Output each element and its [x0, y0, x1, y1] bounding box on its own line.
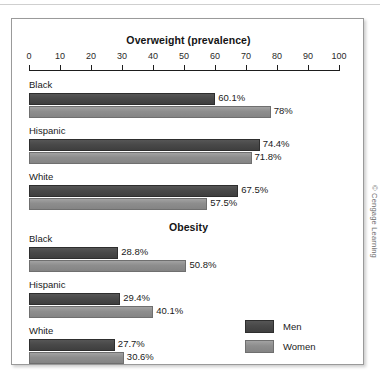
- bar-men: [29, 93, 215, 105]
- overweight-chart-title: Overweight (prevalence): [12, 34, 365, 46]
- bar-value-label: 71.8%: [252, 151, 282, 162]
- x-axis-tick-mark: [308, 65, 309, 71]
- x-axis-tick-label: 90: [303, 51, 313, 61]
- legend: MenWomen: [245, 316, 355, 356]
- x-axis-tick-label: 50: [179, 51, 189, 61]
- bar-row-men: 29.4%: [29, 293, 340, 305]
- legend-swatch-men: [245, 320, 274, 333]
- bar-group: Hispanic74.4%71.8%: [29, 125, 340, 171]
- bar-value-label: 74.4%: [260, 138, 290, 149]
- bar-value-label: 40.1%: [153, 305, 183, 316]
- bar-value-label: 67.5%: [238, 184, 268, 195]
- x-axis-tick-label: 60: [210, 51, 220, 61]
- legend-label-women: Women: [283, 341, 316, 352]
- bar-women: [29, 152, 252, 164]
- x-axis-tick-mark: [122, 65, 123, 71]
- bar-value-label: 28.8%: [118, 246, 148, 257]
- bar-women: [29, 260, 186, 272]
- x-axis-tick-label: 70: [241, 51, 251, 61]
- x-axis-tick-label: 0: [26, 51, 31, 61]
- bar-group-label: Hispanic: [29, 279, 65, 290]
- bar-group: Black60.1%78%: [29, 79, 340, 125]
- x-axis-tick-mark: [215, 65, 216, 71]
- bar-value-label: 57.5%: [207, 197, 237, 208]
- bar-men: [29, 139, 260, 151]
- top-divider: [0, 4, 380, 5]
- bar-value-label: 78%: [271, 105, 293, 116]
- bar-men: [29, 339, 115, 351]
- bar-women: [29, 198, 207, 210]
- bar-group: White67.5%57.5%: [29, 171, 340, 217]
- bar-row-men: 67.5%: [29, 185, 340, 197]
- overweight-plot-area: Black60.1%78%Hispanic74.4%71.8%White67.5…: [29, 79, 340, 217]
- x-axis-tick-mark: [184, 65, 185, 71]
- bar-women: [29, 352, 124, 364]
- x-axis-tick-mark: [277, 65, 278, 71]
- x-axis-tick-mark: [153, 65, 154, 71]
- bar-group: Black28.8%50.8%: [29, 233, 340, 279]
- obesity-chart-title: Obesity: [12, 221, 365, 233]
- bar-value-label: 29.4%: [120, 292, 150, 303]
- legend-swatch-women: [245, 340, 274, 353]
- bar-group-label: White: [29, 171, 53, 182]
- bar-value-label: 27.7%: [115, 338, 145, 349]
- x-axis: 0102030405060708090100: [29, 51, 340, 77]
- bar-row-women: 57.5%: [29, 198, 340, 210]
- x-axis-tick-mark: [60, 65, 61, 71]
- x-axis-tick-label: 30: [117, 51, 127, 61]
- bar-row-women: 71.8%: [29, 152, 340, 164]
- bar-value-label: 50.8%: [186, 259, 216, 270]
- bar-group-label: Black: [29, 233, 52, 244]
- x-axis-tick-label: 10: [55, 51, 65, 61]
- bar-value-label: 30.6%: [124, 351, 154, 362]
- x-axis-tick-mark: [29, 65, 30, 71]
- bar-value-label: 60.1%: [215, 92, 245, 103]
- x-axis-tick-mark: [339, 65, 340, 71]
- x-axis-tick-label: 100: [331, 51, 346, 61]
- bar-group-label: Black: [29, 79, 52, 90]
- figure: Overweight (prevalence) 0102030405060708…: [0, 0, 380, 388]
- bar-group-label: White: [29, 325, 53, 336]
- bar-women: [29, 306, 153, 318]
- chart-panel: Overweight (prevalence) 0102030405060708…: [11, 18, 364, 365]
- copyright-credit: © Cengage Learning: [370, 185, 379, 258]
- bar-men: [29, 247, 118, 259]
- bar-women: [29, 106, 271, 118]
- bar-row-men: 60.1%: [29, 93, 340, 105]
- bar-row-men: 74.4%: [29, 139, 340, 151]
- x-axis-tick-label: 80: [272, 51, 282, 61]
- x-axis-tick-label: 40: [148, 51, 158, 61]
- bar-men: [29, 293, 120, 305]
- x-axis-tick-mark: [246, 65, 247, 71]
- bar-row-men: 28.8%: [29, 247, 340, 259]
- legend-item-women: Women: [245, 336, 355, 356]
- bar-row-women: 78%: [29, 106, 340, 118]
- legend-item-men: Men: [245, 316, 355, 336]
- x-axis-tick-label: 20: [86, 51, 96, 61]
- bar-men: [29, 185, 238, 197]
- legend-label-men: Men: [283, 321, 301, 332]
- bar-row-women: 50.8%: [29, 260, 340, 272]
- bar-group-label: Hispanic: [29, 125, 65, 136]
- x-axis-tick-mark: [91, 65, 92, 71]
